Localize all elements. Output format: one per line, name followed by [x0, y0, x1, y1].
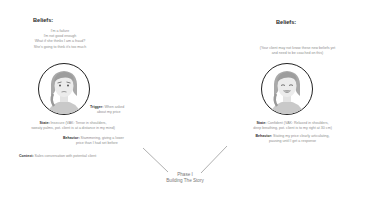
behavior-text-2: pausing until I get a response [225, 139, 360, 144]
state-text-2: deep breathing, pot. client is to my rig… [225, 126, 360, 131]
smiling-woman-avatar [261, 63, 313, 115]
phase-title: Building The Story [150, 178, 220, 184]
behavior-label: Behavior: [255, 134, 272, 138]
smiling-face-icon [262, 64, 312, 114]
right-beliefs-heading: Beliefs: [276, 19, 296, 25]
phase-label: Phase I Building The Story [150, 172, 220, 185]
left-connector-line [143, 148, 168, 172]
beliefs-note-2: and need to be coached on this) [235, 51, 360, 56]
state-text: Confident (VAK: Relaxed in shoulders, [267, 121, 328, 125]
right-beliefs-note: (Your client may not know these new beli… [235, 46, 360, 56]
state-label: State: [256, 121, 266, 125]
right-connector-line [201, 146, 227, 173]
behavior-text: Stating my price clearly articulating, [273, 134, 330, 138]
right-state-block: State: Confident (VAK: Relaxed in should… [225, 121, 360, 131]
right-behavior-block: Behavior: Stating my price clearly artic… [225, 134, 360, 144]
